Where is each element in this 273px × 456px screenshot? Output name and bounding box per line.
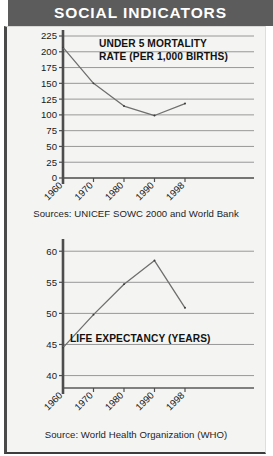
x-tick-label: 1960 — [42, 180, 65, 203]
data-point — [154, 260, 156, 262]
chart-2-title: LIFE EXPECTANCY (YEARS) — [70, 333, 211, 346]
x-tick-label: 1970 — [72, 180, 95, 203]
x-tick-label: 1970 — [72, 390, 95, 413]
chart-2-source: Source: World Health Organization (WHO) — [7, 429, 265, 440]
page-title-band: SOCIAL INDICATORS — [8, 0, 273, 26]
chart-1-title: UNDER 5 MORTALITY RATE (PER 1,000 BIRTHS… — [99, 38, 228, 63]
x-tick-label: 1980 — [103, 180, 126, 203]
chart-1-source: Sources: UNICEF SOWC 2000 and World Bank — [7, 208, 265, 219]
y-tick-label: 55 — [46, 277, 57, 288]
chart-2-plot-wrap: 404550556019601970198019901998 — [7, 233, 269, 425]
chart-2-svg: 404550556019601970198019901998 — [7, 233, 269, 425]
y-tick-label: 60 — [46, 246, 57, 257]
chart-life-expectancy: 404550556019601970198019901998 LIFE EXPE… — [7, 233, 265, 455]
chart-under-5-mortality: 0255075100125150175200225196019701980199… — [7, 27, 265, 233]
y-tick-label: 225 — [41, 30, 57, 41]
y-tick-label: 50 — [46, 141, 57, 152]
data-point — [123, 283, 125, 285]
data-point — [154, 115, 156, 117]
x-tick-label: 1960 — [42, 390, 65, 413]
social-indicators-page: SOCIAL INDICATORS 0255075100125150175200… — [0, 0, 273, 456]
y-tick-label: 200 — [41, 46, 57, 57]
x-tick-label: 1990 — [133, 180, 156, 203]
y-tick-label: 25 — [46, 157, 57, 168]
y-tick-label: 125 — [41, 94, 57, 105]
y-tick-label: 175 — [41, 62, 57, 73]
y-tick-label: 75 — [46, 125, 57, 136]
y-tick-label: 50 — [46, 308, 57, 319]
chart-1-title-line-1: UNDER 5 MORTALITY — [99, 38, 228, 51]
x-tick-label: 1990 — [133, 390, 156, 413]
data-point — [93, 82, 95, 84]
data-point — [184, 307, 186, 309]
x-tick-label: 1998 — [164, 390, 187, 413]
chart-1-title-line-2: RATE (PER 1,000 BIRTHS) — [99, 51, 228, 64]
charts-panel-inner: 0255075100125150175200225196019701980199… — [7, 27, 265, 452]
y-tick-label: 45 — [46, 339, 57, 350]
y-tick-label: 150 — [41, 78, 57, 89]
charts-panel: 0255075100125150175200225196019701980199… — [4, 26, 266, 454]
y-tick-label: 100 — [41, 109, 57, 120]
x-tick-label: 1980 — [103, 390, 126, 413]
data-point — [93, 314, 95, 316]
y-tick-label: 40 — [46, 370, 57, 381]
data-point — [123, 105, 125, 107]
data-point — [62, 46, 64, 48]
data-point — [184, 103, 186, 105]
data-point — [62, 347, 64, 349]
x-tick-label: 1998 — [164, 180, 187, 203]
page-title: SOCIAL INDICATORS — [54, 4, 227, 22]
